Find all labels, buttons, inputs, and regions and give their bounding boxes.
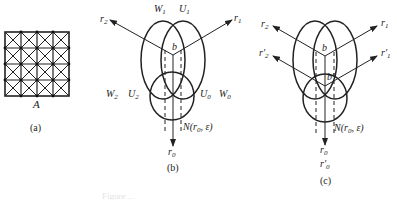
panel-c: r2 r1 r′2 r′1 b b′ N(r0, ε) r0 r′0 (c) xyxy=(259,17,391,187)
arrow-r2-prime xyxy=(273,56,325,86)
label-b-prime: b′ xyxy=(327,71,335,82)
label-r1-prime: r′1 xyxy=(381,47,391,60)
arrows-b xyxy=(110,20,232,146)
label-U1: U1 xyxy=(179,3,190,16)
label-r0-prime: r′0 xyxy=(320,158,330,171)
label-U2: U2 xyxy=(128,88,139,101)
label-neighborhood-c: N(r0, ε) xyxy=(333,122,364,135)
label-U0: U0 xyxy=(200,88,211,101)
label-W0: W0 xyxy=(219,88,231,101)
label-r2: r2 xyxy=(100,13,108,26)
arrow-r1 xyxy=(173,20,232,55)
label-b: b xyxy=(172,41,177,52)
ellipse-U xyxy=(161,21,205,99)
figure-caption-partial: Figure ... xyxy=(102,191,135,200)
label-W1: W1 xyxy=(154,3,166,16)
figure-canvas: A (a) r2 r1 W1 U1 b W2 U2 U0 W0 N(r0, ε)… xyxy=(0,0,397,200)
label-r2-prime: r′2 xyxy=(259,47,269,60)
label-W2: W2 xyxy=(106,88,118,101)
caption-c: (c) xyxy=(320,175,331,187)
label-A: A xyxy=(32,98,40,110)
panel-b: r2 r1 W1 U1 b W2 U2 U0 W0 N(r0, ε) r0 (b… xyxy=(100,3,241,174)
label-r1: r1 xyxy=(381,17,388,30)
label-r0: r0 xyxy=(168,146,176,159)
panel-a: A (a) xyxy=(4,31,71,134)
label-r2: r2 xyxy=(261,18,269,31)
label-b: b xyxy=(322,42,327,53)
ellipse-W xyxy=(141,21,185,99)
caption-b: (b) xyxy=(167,162,179,174)
caption-a: (a) xyxy=(30,122,41,134)
label-r0: r0 xyxy=(320,144,328,157)
label-r1: r1 xyxy=(234,12,241,25)
arrow-r2 xyxy=(273,26,325,56)
label-neighborhood-b: N(r0, ε) xyxy=(182,121,213,134)
arrow-r1 xyxy=(325,26,377,56)
